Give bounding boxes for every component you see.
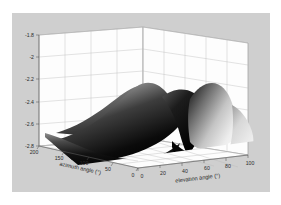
- elevation-tick-label: 20: [160, 170, 166, 176]
- screenshot-root: -1.8 -2 -2.2 -2.4 -2.6 -2.8 200 150 100 …: [0, 0, 281, 205]
- elevation-tick-label: 60: [204, 165, 210, 171]
- z-tick-label: -2.4: [25, 99, 34, 105]
- elevation-tick-label: 0: [141, 173, 144, 179]
- z-tick-label: -1.8: [25, 32, 34, 38]
- z-tick-label: -2.6: [25, 121, 34, 127]
- azimuth-tick-label: 50: [105, 166, 111, 172]
- azimuth-tick-label: 200: [30, 149, 39, 155]
- z-tick-label: -2.2: [25, 76, 34, 82]
- elevation-tick-label: 40: [182, 168, 188, 174]
- surface-plot: -1.8 -2 -2.2 -2.4 -2.6 -2.8 200 150 100 …: [12, 13, 270, 192]
- z-tick-labels: -1.8 -2 -2.2 -2.4 -2.6 -2.8: [25, 32, 34, 149]
- elevation-tick-label: 100: [246, 160, 255, 166]
- matlab-figure-canvas: -1.8 -2 -2.2 -2.4 -2.6 -2.8 200 150 100 …: [12, 13, 270, 192]
- azimuth-tick-label: 0: [132, 172, 135, 178]
- z-tick-label: -2: [29, 54, 34, 60]
- elevation-tick-label: 80: [225, 163, 231, 169]
